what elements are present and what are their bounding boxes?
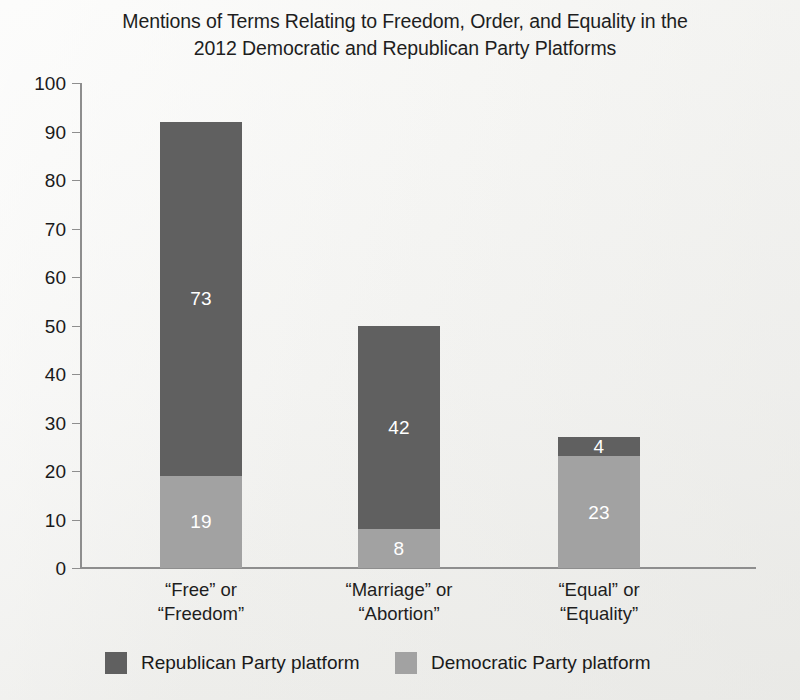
- legend-swatch-democratic-icon: [395, 652, 417, 674]
- y-tick-mark-70: [72, 229, 80, 230]
- legend-label-republican: Republican Party platform: [141, 652, 360, 674]
- legend-swatch-republican-icon: [105, 652, 127, 674]
- bar-group-free-freedom[interactable]: 19 73: [160, 122, 242, 568]
- legend-item-republican[interactable]: Republican Party platform: [105, 648, 360, 678]
- legend-label-democratic: Democratic Party platform: [431, 652, 651, 674]
- y-tick-label-0: 0: [55, 558, 66, 579]
- y-tick-mark-0: [72, 568, 80, 569]
- y-axis-line: [80, 83, 82, 568]
- y-tick-mark-100: [72, 83, 80, 84]
- bar-value-label-democratic-3: 23: [588, 503, 610, 522]
- y-tick-label-70: 70: [45, 219, 66, 240]
- y-tick-mark-80: [72, 180, 80, 181]
- bar-segment-democratic-3[interactable]: 23: [558, 456, 640, 568]
- y-tick-label-100: 100: [34, 73, 66, 94]
- bar-group-equal-equality[interactable]: 23 4: [558, 437, 640, 568]
- bar-group-marriage-abortion[interactable]: 8 42: [358, 326, 440, 569]
- bar-segment-democratic-2[interactable]: 8: [358, 529, 440, 568]
- y-tick-mark-90: [72, 132, 80, 133]
- y-tick-label-10: 10: [45, 510, 66, 531]
- bar-value-label-republican-2: 42: [388, 418, 410, 437]
- chart-legend: Republican Party platform Democratic Par…: [0, 648, 800, 682]
- bar-segment-republican-1[interactable]: 73: [160, 122, 242, 476]
- y-tick-label-50: 50: [45, 316, 66, 337]
- bar-value-label-republican-1: 73: [190, 289, 212, 308]
- y-tick-mark-60: [72, 277, 80, 278]
- y-tick-mark-20: [72, 471, 80, 472]
- bar-chart: Mentions of Terms Relating to Freedom, O…: [0, 0, 800, 700]
- y-tick-label-90: 90: [45, 122, 66, 143]
- chart-title: Mentions of Terms Relating to Freedom, O…: [60, 8, 750, 62]
- bar-segment-republican-2[interactable]: 42: [358, 326, 440, 530]
- y-tick-label-30: 30: [45, 413, 66, 434]
- bar-value-label-republican-3: 4: [594, 437, 605, 456]
- y-tick-mark-50: [72, 326, 80, 327]
- x-axis-label-equal-equality-line-2: “Equality”: [479, 602, 719, 626]
- y-tick-label-20: 20: [45, 461, 66, 482]
- chart-title-line-2: 2012 Democratic and Republican Party Pla…: [60, 35, 750, 62]
- chart-title-line-1: Mentions of Terms Relating to Freedom, O…: [60, 8, 750, 35]
- y-tick-label-60: 60: [45, 267, 66, 288]
- y-tick-mark-10: [72, 520, 80, 521]
- y-tick-mark-30: [72, 423, 80, 424]
- bar-value-label-democratic-2: 8: [394, 539, 405, 558]
- bar-value-label-democratic-1: 19: [190, 512, 212, 531]
- legend-item-democratic[interactable]: Democratic Party platform: [395, 648, 651, 678]
- bar-segment-democratic-1[interactable]: 19: [160, 476, 242, 568]
- plot-area: 19 73 8 42 23 4: [80, 83, 756, 568]
- x-axis-label-equal-equality-line-1: “Equal” or: [479, 578, 719, 602]
- x-axis-label-equal-equality: “Equal” or “Equality”: [479, 578, 719, 626]
- y-tick-label-40: 40: [45, 364, 66, 385]
- y-tick-label-80: 80: [45, 170, 66, 191]
- bar-segment-republican-3[interactable]: 4: [558, 437, 640, 456]
- y-tick-mark-40: [72, 374, 80, 375]
